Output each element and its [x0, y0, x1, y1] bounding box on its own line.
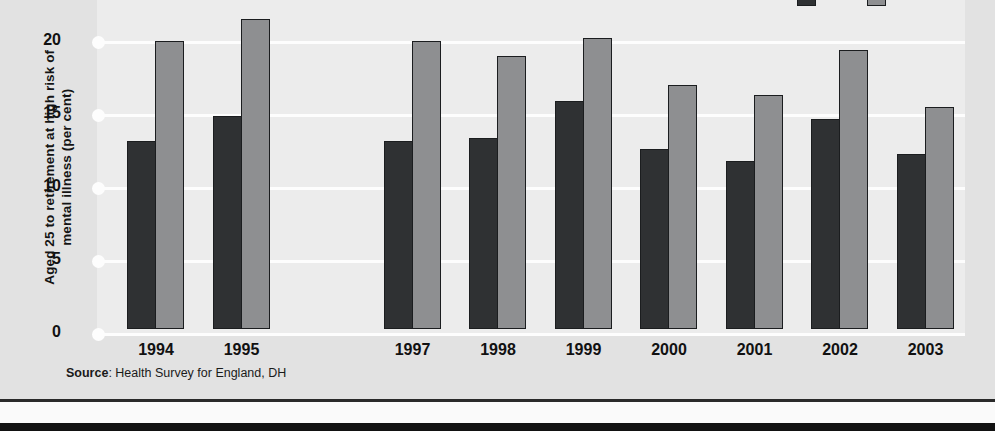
bar-women-2003 [925, 107, 954, 329]
legend-item-men: Men [797, 0, 853, 6]
legend-item-women: Women [867, 0, 947, 6]
source-prefix: Source [66, 366, 108, 380]
gridline-0 [97, 333, 965, 336]
x-tick-label-1994: 1994 [116, 341, 196, 359]
chart-figure: Aged 25 to retirement at high risk of me… [0, 0, 995, 401]
bar-women-2000 [668, 85, 697, 329]
bar-men-2003 [897, 154, 926, 329]
bar-men-2000 [640, 149, 669, 329]
gridline-marker-5 [92, 255, 105, 268]
legend-label-men: Men [823, 0, 853, 2]
bar-group-2000 [640, 0, 698, 329]
bar-men-1997 [384, 141, 413, 329]
bar-women-2002 [839, 50, 868, 329]
bar-women-2001 [754, 95, 783, 329]
y-tick-label-10: 10 [1, 177, 61, 195]
bar-men-2002 [811, 119, 840, 329]
bar-men-1994 [127, 141, 156, 329]
divider-black [0, 423, 995, 431]
x-tick-label-1997: 1997 [373, 341, 453, 359]
y-tick-label-0: 0 [1, 323, 61, 341]
plot-area: 05101520 1994199519971998199920002001200… [97, 0, 965, 335]
bar-group-1995 [213, 0, 271, 329]
bar-men-2001 [726, 161, 755, 329]
bar-group-1999 [555, 0, 613, 329]
bar-women-1999 [583, 38, 612, 329]
bar-men-1998 [469, 138, 498, 329]
bar-women-1994 [155, 41, 184, 329]
x-tick-label-1999: 1999 [544, 341, 624, 359]
bar-group-2001 [726, 0, 784, 329]
legend-swatch-women-icon [867, 0, 886, 6]
gridline-marker-20 [92, 36, 105, 49]
white-band [0, 402, 995, 423]
bar-group-2002 [811, 0, 869, 329]
y-tick-label-5: 5 [1, 250, 61, 268]
x-tick-label-1998: 1998 [458, 341, 538, 359]
bar-group-2003 [897, 0, 955, 329]
gridline-marker-0 [92, 328, 105, 341]
x-tick-label-2003: 2003 [886, 341, 966, 359]
source-text: : Health Survey for England, DH [108, 366, 286, 380]
x-tick-label-2002: 2002 [800, 341, 880, 359]
bar-men-1995 [213, 116, 242, 329]
x-tick-label-2001: 2001 [715, 341, 795, 359]
x-tick-label-2000: 2000 [629, 341, 709, 359]
source-note: Source: Health Survey for England, DH [66, 366, 286, 380]
legend: Men Women [797, 0, 947, 6]
bar-group-1994 [127, 0, 185, 329]
legend-label-women: Women [893, 0, 947, 2]
legend-swatch-men-icon [797, 0, 816, 6]
y-tick-label-20: 20 [1, 31, 61, 49]
x-tick-label-1995: 1995 [202, 341, 282, 359]
bar-group-1998 [469, 0, 527, 329]
bar-group-1997 [384, 0, 442, 329]
gridline-marker-15 [92, 109, 105, 122]
bar-women-1998 [497, 56, 526, 329]
gridline-marker-10 [92, 182, 105, 195]
bar-men-1999 [555, 101, 584, 329]
y-tick-label-15: 15 [1, 104, 61, 122]
bar-women-1997 [412, 41, 441, 329]
bar-women-1995 [241, 19, 270, 329]
